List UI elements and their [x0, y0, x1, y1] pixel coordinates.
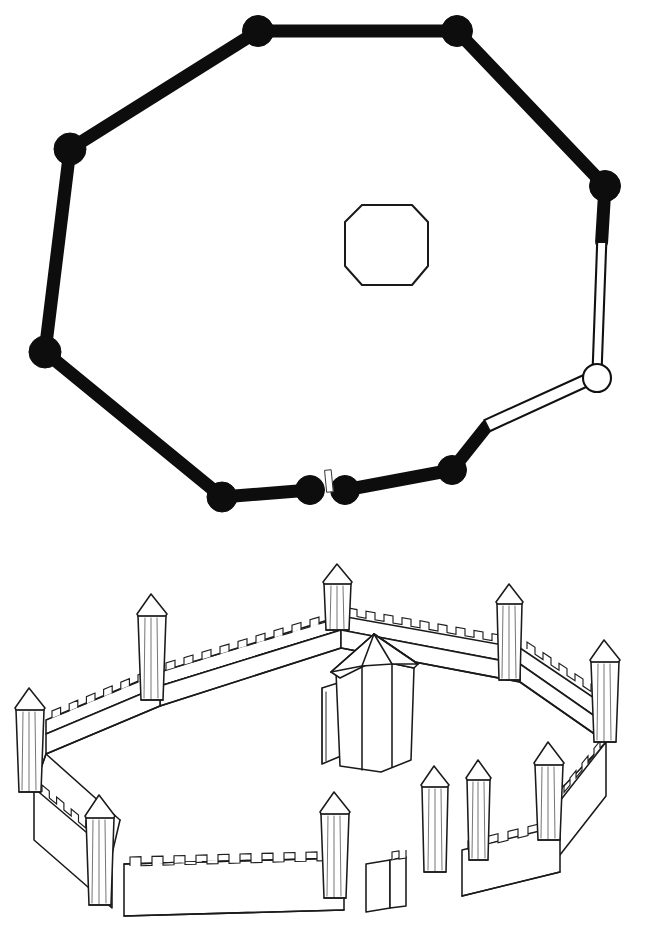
plan-tower-west-north — [54, 133, 86, 165]
perspective-figure: Perspective reconstruction of the fortre… — [0, 520, 654, 938]
tower-south-east — [534, 742, 564, 840]
plan-wall-south-east-gate — [345, 470, 452, 490]
tower-sw-shaft — [86, 818, 114, 905]
tower-gate-east-b — [466, 760, 491, 860]
plan-tower-east-north — [590, 171, 621, 202]
gate-passage-wall — [366, 860, 390, 912]
plan-tower-east-south — [583, 364, 611, 392]
gate-return-wall — [390, 857, 406, 908]
tower-w-shaft — [16, 710, 44, 792]
tower-north — [323, 564, 352, 630]
plan-curtain-wall-restored — [484, 242, 606, 431]
tower-geb-shaft — [467, 780, 490, 860]
plan-tower-north-west — [243, 16, 274, 47]
figure-caption: Perspective reconstruction of the fortre… — [4, 926, 132, 934]
keep-body — [336, 660, 414, 772]
plan-curtain-wall-solid — [45, 31, 605, 497]
plan-wall-west — [45, 149, 70, 352]
plan-tower-gate-east — [331, 476, 360, 505]
plan-wall-south-east-restored — [484, 374, 591, 431]
plan-tower-gate-west — [296, 476, 325, 505]
tower-north-shaft — [324, 584, 351, 630]
plan-tower-south-west — [207, 482, 237, 512]
tower-north-west — [137, 594, 167, 700]
tower-ne-shaft — [497, 604, 522, 680]
plan-gate — [325, 470, 334, 493]
plan-tower-west-south — [29, 336, 61, 368]
tower-gw-shaft — [321, 814, 349, 898]
central-keep — [322, 634, 418, 772]
plan-towers — [29, 16, 621, 513]
wall-front-left-face — [124, 858, 344, 916]
tower-north-east — [496, 584, 523, 680]
plan-central-keep — [345, 205, 428, 285]
figure-sheet: Perspective reconstruction of the fortre… — [0, 0, 654, 938]
plan-wall-north-east — [457, 31, 605, 186]
tower-south-west — [85, 795, 115, 905]
plan-wall-east-restored — [593, 242, 607, 373]
tower-nw-shaft — [138, 616, 166, 700]
tower-gate-east-a — [421, 766, 449, 872]
ground-plan-figure — [0, 0, 654, 520]
tower-gate-west — [320, 792, 350, 898]
wall-east-face — [556, 742, 606, 860]
tower-se-shaft — [535, 765, 563, 840]
tower-east — [590, 640, 620, 742]
plan-wall-south-west — [45, 352, 222, 497]
tower-e-shaft — [591, 662, 619, 742]
plan-wall-north-west — [70, 31, 258, 149]
tower-west — [15, 688, 45, 792]
plan-tower-north-east — [442, 16, 473, 47]
plan-tower-south-east — [438, 456, 467, 485]
